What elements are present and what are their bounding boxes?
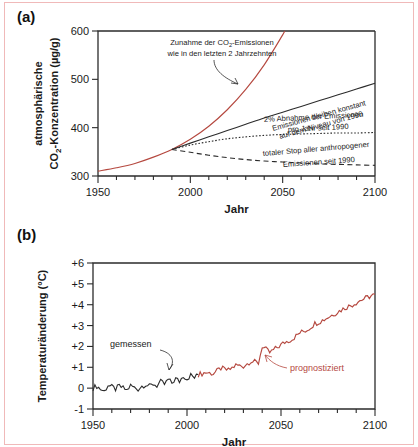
panel-b-y-axis-title: Temperaturänderung (°C) — [36, 269, 48, 402]
annot-zunahme-rest: -Emissionen — [232, 38, 274, 47]
panel-b-x-tick-label: 2000 — [175, 419, 199, 431]
panel-a-x-tick-label: 1950 — [86, 186, 110, 198]
panel-b-y-tick-label: +1 — [71, 361, 84, 373]
panel-a-y-axis-title-line2: CO2-Konzentration (µg/g) — [48, 37, 63, 169]
panel-a-y-axis: 300400500600 — [71, 25, 98, 182]
annot-stop-line2: Emissionen seit 1990 — [283, 155, 356, 169]
annot-zunahme-line1: Zunahme der CO2-Emissionen — [170, 38, 274, 48]
panel-a-x-tick-label: 2050 — [270, 186, 294, 198]
panel-a-x-tick-label: 2000 — [178, 186, 202, 198]
panel-a-x-axis: 1950200020502100Jahr — [86, 176, 387, 215]
panel-a-annotations: Zunahme der CO2-Emissionenwie in den let… — [167, 38, 371, 169]
annot-zunahme-leader — [214, 60, 238, 84]
panel-a-y-tick-label: 300 — [71, 170, 89, 182]
annot-prognostiziert-label: prognostiziert — [290, 363, 345, 373]
annot-gemessen-label: gemessen — [110, 339, 152, 349]
panel-b-y-tick-label: +6 — [71, 257, 84, 269]
panel-b-x-tick-label: 1950 — [81, 419, 105, 431]
panel-b-x-tick-label: 2100 — [363, 419, 387, 431]
panel-b-chart: -10+1+2+3+4+5+61950200020502100JahrTempe… — [0, 222, 418, 447]
panel-b-y-tick-label: +2 — [71, 340, 84, 352]
y-title-rest: -Konzentration (µg/g) — [48, 37, 60, 148]
panel-b-y-tick-label: -1 — [74, 403, 84, 415]
panel-a-x-tick-label: 2100 — [363, 186, 387, 198]
panel-a-y-axis-title-line1: atmosphärische — [32, 61, 44, 145]
annot-prognostiziert-leader — [265, 355, 287, 368]
panel-b-x-axis: 1950200020502100Jahr — [81, 409, 387, 447]
panel-b-series-0 — [93, 374, 198, 392]
panel-a-co2-concentration: (a) 3004005006001950200020502100Jahratmo… — [0, 0, 418, 222]
panel-b-x-tick-label: 2050 — [269, 419, 293, 431]
panel-a-y-tick-label: 500 — [71, 73, 89, 85]
panel-b-y-tick-label: 0 — [78, 382, 84, 394]
panel-b-y-tick-label: +4 — [71, 299, 84, 311]
panel-b-annotations: gemessenprognostiziert — [110, 339, 345, 373]
panel-a-x-axis-title: Jahr — [224, 203, 249, 215]
panel-b-y-axis: -10+1+2+3+4+5+6 — [71, 257, 93, 415]
panel-b-series-1 — [198, 294, 375, 378]
panel-a-y-tick-label: 600 — [71, 25, 89, 37]
annot-abnahme-line2: pro Jahr seit 1990 — [288, 122, 349, 134]
panel-b-temperature-change: (b) -10+1+2+3+4+5+61950200020502100JahrT… — [0, 222, 418, 447]
panel-b-x-axis-title: Jahr — [222, 436, 247, 447]
panel-a-y-axis-title: atmosphärischeCO2-Konzentration (µg/g) — [32, 37, 63, 169]
annot-zunahme-co: Zunahme der CO — [170, 38, 229, 47]
y-title-co: CO — [48, 152, 60, 169]
figure-container: (a) 3004005006001950200020502100Jahratmo… — [0, 0, 418, 447]
panel-b-y-tick-label: +5 — [71, 278, 84, 290]
panel-a-y-tick-label: 400 — [71, 122, 89, 134]
panel-a-chart: 3004005006001950200020502100Jahratmosphä… — [0, 0, 418, 222]
panel-b-y-tick-label: +3 — [71, 320, 84, 332]
annot-zunahme-line2: wie in den letzten 2 Jahrzehnten — [167, 49, 277, 58]
